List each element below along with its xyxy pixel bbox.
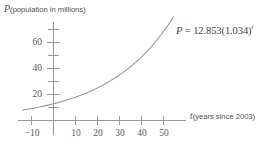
equation-equals: =: [185, 25, 191, 36]
equation-exponent: t: [251, 23, 253, 30]
y-axis-caption-text: (population in millions): [10, 5, 86, 14]
x-axis-caption-text: (years since 2003): [193, 112, 255, 121]
exponential-curve: [23, 17, 174, 110]
exponential-growth-figure: P(population in millions) t(years since …: [0, 0, 268, 146]
equation-base: 1.034: [225, 25, 248, 36]
curve-equation-label: P = 12.853(1.034)t: [176, 24, 253, 36]
x-axis-caption: t(years since 2003): [190, 112, 255, 122]
x-tick-label-minus10: −10: [17, 128, 47, 138]
plot-area: [0, 0, 268, 146]
y-tick-label-60: 60: [18, 37, 42, 47]
equation-lhs: P: [176, 25, 182, 36]
x-tick-label-50: 50: [151, 128, 177, 138]
y-tick-label-20: 20: [18, 89, 42, 99]
y-axis-caption: P(population in millions): [4, 4, 86, 14]
y-tick-label-40: 40: [18, 63, 42, 73]
equation-coefficient: 12.853: [193, 25, 221, 36]
